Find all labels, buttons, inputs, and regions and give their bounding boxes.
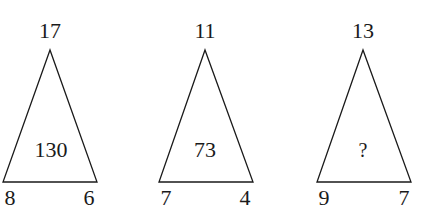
triangle-3-bottom-right-number: 7 (399, 185, 410, 210)
triangle-3-center-unknown: ? (359, 139, 368, 161)
triangle-1-bottom-right-number: 6 (84, 185, 95, 210)
triangle-2-top-number: 11 (194, 18, 215, 43)
triangle-1-bottom-left-number: 8 (5, 185, 16, 210)
triangle-2-center-number: 73 (194, 137, 216, 162)
triangle-1-center-number: 130 (35, 137, 68, 162)
triangle-3-shape (317, 50, 411, 182)
triangle-2-bottom-right-number: 4 (240, 185, 251, 210)
triangle-3-top-number: 13 (352, 18, 374, 43)
triangle-3: 13 ? 9 7 (317, 18, 411, 210)
triangle-1-shape (3, 50, 97, 182)
triangle-1: 17 130 8 6 (3, 18, 97, 210)
triangle-2-bottom-left-number: 7 (161, 185, 172, 210)
triangle-1-top-number: 17 (39, 18, 61, 43)
triangle-puzzle: 17 130 8 6 11 73 7 4 13 ? 9 7 (0, 0, 426, 213)
triangle-2: 11 73 7 4 (159, 18, 253, 210)
triangle-3-bottom-left-number: 9 (319, 185, 330, 210)
triangle-2-shape (159, 50, 253, 182)
